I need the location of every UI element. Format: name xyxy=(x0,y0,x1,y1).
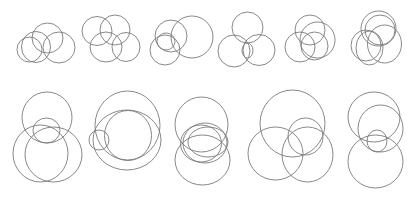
circle-diagram xyxy=(0,0,418,199)
